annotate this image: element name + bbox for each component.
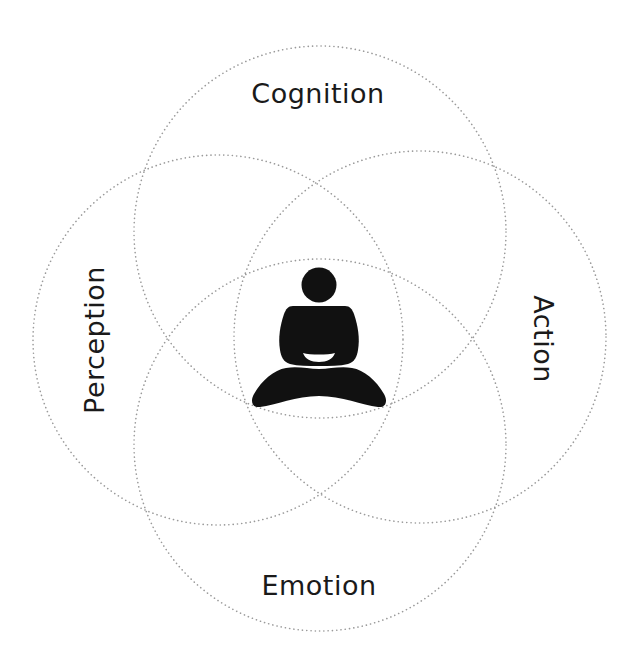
label-action: Action <box>528 295 559 383</box>
figure-head <box>302 268 337 303</box>
label-perception: Perception <box>79 266 110 414</box>
label-emotion: Emotion <box>261 570 376 601</box>
label-cognition: Cognition <box>251 78 384 109</box>
meditating-person-icon <box>252 268 386 408</box>
venn-diagram: Cognition Perception Action Emotion <box>0 0 637 662</box>
figure-legs <box>252 367 386 407</box>
